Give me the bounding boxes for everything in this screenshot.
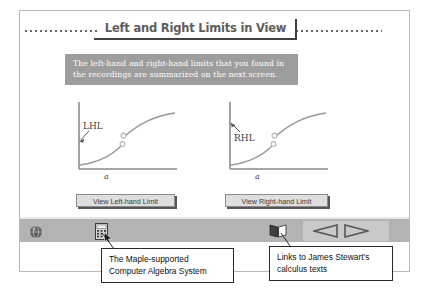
- title-bar: Left and Right Limits in View: [20, 19, 409, 41]
- upper-endpoint-marker: [121, 133, 126, 138]
- upper-endpoint-marker: [272, 133, 277, 138]
- book-icon[interactable]: [269, 223, 287, 238]
- screenshot-root: Left and Right Limits in View The left-h…: [0, 0, 431, 305]
- page-title: Left and Right Limits in View: [94, 19, 297, 37]
- figure-frame: Left and Right Limits in View The left-h…: [19, 10, 410, 272]
- lower-endpoint-marker: [120, 142, 125, 147]
- right-branch-curve: [124, 113, 175, 137]
- lhl-leader-line: [81, 131, 90, 140]
- mouse-cursor-icon: [104, 232, 113, 242]
- globe-icon[interactable]: [29, 225, 44, 239]
- view-left-hand-limit-button[interactable]: View Left-hand Limit: [76, 194, 175, 207]
- rhl-annotation-label: RHL: [234, 133, 255, 143]
- message-line-2: the recordings are summarized on the nex…: [73, 70, 290, 81]
- callout-left-line-1: The Maple-supported: [109, 254, 226, 266]
- message-line-1: The left-hand and right-hand limits that…: [73, 59, 290, 70]
- lower-endpoint-marker: [271, 142, 276, 147]
- callout-right-line-1: Links to James Stewart's: [277, 252, 385, 264]
- next-arrow-icon[interactable]: [343, 224, 369, 238]
- navigation-button-group: [303, 221, 389, 241]
- lhl-annotation-label: LHL: [83, 121, 103, 131]
- dotted-rule-left: [25, 30, 98, 32]
- application-window: Left and Right Limits in View The left-h…: [20, 11, 409, 242]
- callout-stewart-links: Links to James Stewart's calculus texts: [269, 246, 393, 281]
- right-graph-axis-label: a: [199, 172, 316, 181]
- view-right-hand-limit-button[interactable]: View Right-hand Limit: [225, 194, 328, 207]
- callout-maple-cas: The Maple-supported Computer Algebra Sys…: [101, 248, 234, 283]
- dotted-rule-right: [296, 30, 382, 32]
- left-branch-curve: [231, 146, 272, 165]
- left-branch-curve: [80, 146, 121, 165]
- callout-left-line-2: Computer Algebra System: [109, 266, 226, 278]
- callout-right-line-2: calculus texts: [277, 264, 385, 276]
- message-banner: The left-hand and right-hand limits that…: [65, 54, 298, 85]
- right-branch-curve: [275, 113, 326, 137]
- previous-arrow-icon[interactable]: [313, 224, 339, 238]
- left-hand-limit-graph: LHL a: [65, 99, 182, 181]
- right-limit-plot-svg: RHL: [216, 99, 333, 181]
- right-hand-limit-graph: RHL a: [216, 99, 333, 181]
- bottom-toolbar: [20, 217, 409, 242]
- left-limit-plot-svg: LHL: [65, 99, 182, 181]
- left-graph-axis-label: a: [48, 172, 165, 181]
